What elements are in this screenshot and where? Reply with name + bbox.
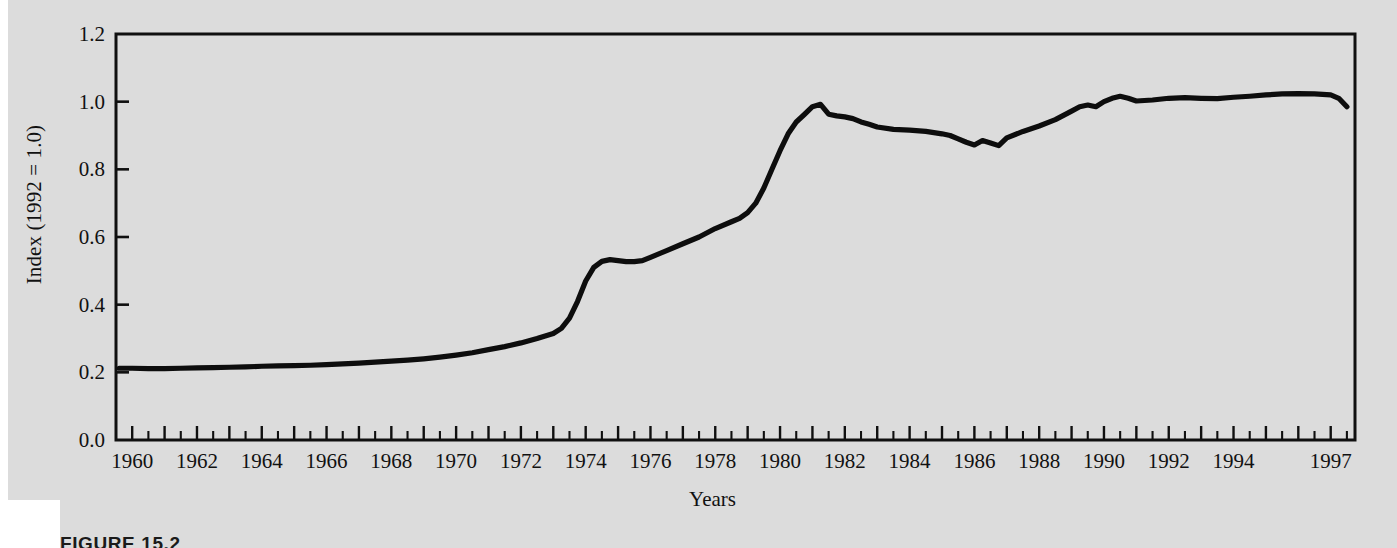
data-series-group	[119, 94, 1347, 369]
y-axis-tick-marks	[116, 102, 129, 373]
figure-caption: FIGURE 15.2	[60, 533, 181, 548]
x-axis-tick-marks	[132, 426, 1347, 440]
figure-container: Index (1992 = 1.0) 0.00.20.40.60.81.01.2…	[0, 0, 1397, 548]
plot-area	[0, 0, 1397, 548]
axis-frame	[116, 34, 1355, 440]
data-line-index	[119, 94, 1347, 369]
